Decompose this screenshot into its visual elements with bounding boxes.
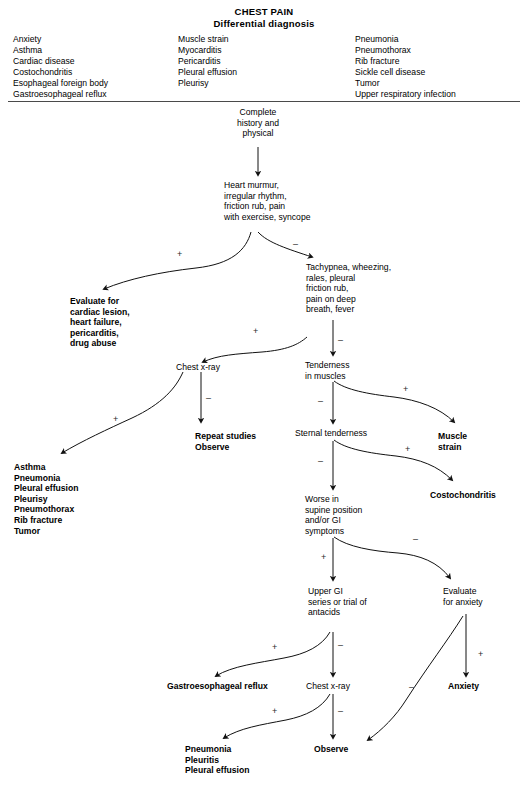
sign-chestxray-positive: +: [113, 415, 118, 424]
node-repeat-studies-observe: Repeat studies Observe: [195, 431, 256, 452]
flowchart-page: CHEST PAIN Differential diagnosis Anxiet…: [0, 0, 528, 786]
edge-respiratory-to-chestxray: [203, 337, 307, 362]
node-chest-xray-upper: Chest x-ray: [176, 362, 220, 373]
sign-uppergi-negative: –: [338, 641, 343, 650]
differential-column-2: Muscle strain Myocarditis Pericarditis P…: [178, 34, 237, 89]
edge-cardiac-to-evaluate: [104, 232, 251, 289]
sign-cardiac-positive: +: [177, 250, 182, 259]
node-pulmonary-diagnoses: Asthma Pneumonia Pleural effusion Pleuri…: [14, 462, 78, 536]
sign-worsesupine-positive: +: [321, 553, 326, 562]
node-evaluate-for-anxiety: Evaluate for anxiety: [443, 586, 483, 607]
edge-uppergi-to-gerd: [216, 632, 330, 676]
edge-sternal-to-costochondritis: [334, 440, 452, 480]
node-sternal-tenderness: Sternal tenderness: [295, 428, 367, 439]
sign-respiratory-positive: +: [253, 327, 258, 336]
node-costochondritis: Costochondritis: [430, 490, 496, 501]
node-complete-history-physical: Complete history and physical: [228, 107, 288, 139]
sign-uppergi-positive: +: [272, 643, 277, 652]
sign-tenderness-positive: +: [403, 385, 408, 394]
sign-anxiety-negative: –: [409, 683, 414, 692]
differential-column-1: Anxiety Asthma Cardiac disease Costochon…: [13, 34, 108, 101]
differential-column-3: Pneumonia Pneumothorax Rib fracture Sick…: [355, 34, 456, 101]
sign-sternal-negative: –: [318, 457, 323, 466]
node-anxiety: Anxiety: [448, 681, 479, 692]
edge-cardiac-to-respiratory: [258, 232, 312, 257]
sign-tenderness-negative: –: [318, 397, 323, 406]
node-chest-xray-lower: Chest x-ray: [306, 681, 350, 692]
node-muscle-strain: Muscle strain: [438, 431, 467, 452]
sign-cardiac-negative: –: [293, 240, 298, 249]
sign-worsesupine-negative: –: [413, 535, 418, 544]
node-respiratory-signs: Tachypnea, wheezing, rales, pleural fric…: [306, 262, 391, 315]
sign-chestxraylower-negative: –: [338, 707, 343, 716]
node-cardiac-signs: Heart murmur, irregular rhythm, friction…: [224, 180, 310, 222]
sign-chestxraylower-positive: +: [272, 707, 277, 716]
edge-tenderness-to-musclestrain: [334, 381, 454, 422]
sign-chestxray-negative: –: [206, 394, 211, 403]
node-upper-gi-series: Upper GI series or trial of antacids: [308, 586, 367, 618]
sign-anxiety-positive: +: [478, 650, 483, 659]
node-evaluate-cardiac: Evaluate for cardiac lesion, heart failu…: [70, 296, 130, 349]
page-subtitle: Differential diagnosis: [0, 18, 528, 30]
node-pneumonia-group: Pneumonia Pleuritis Pleural effusion: [185, 744, 249, 776]
edge-worsesupine-to-anxiety-eval: [334, 537, 450, 578]
edge-anxietyeval-to-observe: [368, 616, 463, 740]
page-title: CHEST PAIN: [0, 6, 528, 18]
sign-respiratory-negative: –: [338, 336, 343, 345]
node-observe: Observe: [314, 744, 348, 755]
edge-chestxray-to-pulmonary: [62, 372, 183, 453]
node-gastroesophageal-reflux: Gastroesophageal reflux: [167, 681, 268, 692]
header-divider: [8, 101, 520, 102]
node-worse-supine: Worse in supine position and/or GI sympt…: [305, 494, 362, 536]
edge-chestxraylower-to-pneumonia: [224, 694, 330, 738]
node-tenderness-in-muscles: Tenderness in muscles: [305, 360, 349, 381]
sign-sternal-positive: +: [405, 445, 410, 454]
